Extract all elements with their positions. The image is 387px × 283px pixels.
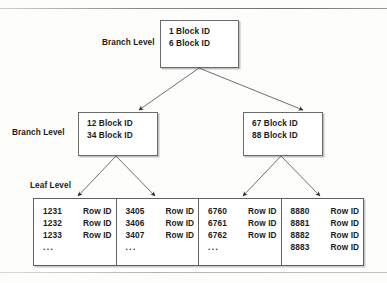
leaf-row-key: 8881 [291, 217, 331, 229]
leaf-row: ... [208, 241, 281, 253]
leaf-row-key: 1231 [43, 205, 83, 217]
page-rule-bottom [0, 272, 387, 273]
leaf-row: 6761Row ID [208, 217, 281, 229]
branch-level-label: Branch Level [12, 128, 65, 137]
leaf-row: 1231Row ID [43, 205, 116, 217]
leaf-row-value: Row ID [331, 229, 360, 241]
leaf-row-value: Row ID [166, 229, 195, 241]
leaf-row-key: ... [126, 241, 166, 253]
branch-node-right: 67 Block ID 88 Block ID [243, 112, 323, 156]
leaf-row: 3407Row ID [126, 229, 199, 241]
root-entry-1: 1 Block ID [169, 26, 238, 38]
branch-left-entry-1: 12 Block ID [87, 118, 157, 130]
leaf-row-key: 8883 [291, 241, 331, 253]
leaf-row: 3406Row ID [126, 217, 199, 229]
leaf-block-3: 6760Row ID6761Row ID6762Row ID... [199, 199, 282, 265]
leaf-row-value: Row ID [166, 217, 195, 229]
leaf-row-value: Row ID [331, 205, 360, 217]
edge-branch-right-to-leaf-4 [281, 156, 320, 196]
branch-right-entry-1: 67 Block ID [252, 118, 322, 130]
leaf-block-2: 3405Row ID3406Row ID3407Row ID... [117, 199, 200, 265]
page-rule-top [0, 8, 387, 9]
leaf-row-key: 8880 [291, 205, 331, 217]
leaf-row: 8880Row ID [291, 205, 364, 217]
leaf-row-key: 1233 [43, 229, 83, 241]
leaf-row-key: ... [208, 241, 248, 253]
leaf-row-key: 3405 [126, 205, 166, 217]
leaf-block-4: 8880Row ID8881Row ID8882Row ID8883Row ID [282, 199, 364, 265]
leaf-row-key: ... [43, 241, 83, 253]
leaf-row: ... [43, 241, 116, 253]
edge-root-to-branch-left [139, 68, 199, 110]
leaf-row: 3405Row ID [126, 205, 199, 217]
edge-branch-left-to-leaf-2 [116, 156, 155, 196]
leaf-block-1: 1231Row ID1232Row ID1233Row ID... [34, 199, 117, 265]
edge-root-to-branch-right [199, 68, 303, 110]
leaf-row-value: Row ID [166, 205, 195, 217]
root-level-label: Branch Level [102, 38, 155, 47]
root-entry-2: 6 Block ID [169, 38, 238, 50]
branch-left-entry-2: 34 Block ID [87, 130, 157, 142]
leaf-row: 6762Row ID [208, 229, 281, 241]
diagram-canvas: 1 Block ID 6 Block ID Branch Level 12 Bl… [0, 0, 387, 283]
leaf-row-value: Row ID [83, 217, 112, 229]
leaf-row-key: 6762 [208, 229, 248, 241]
leaf-row: 1233Row ID [43, 229, 116, 241]
leaf-row-value: Row ID [83, 229, 112, 241]
leaf-row: ... [126, 241, 199, 253]
leaf-level-container: 1231Row ID1232Row ID1233Row ID... 3405Ro… [33, 198, 364, 266]
leaf-level-label: Leaf Level [30, 181, 71, 190]
root-branch-node: 1 Block ID 6 Block ID [160, 20, 239, 68]
leaf-row: 8882Row ID [291, 229, 364, 241]
leaf-row-key: 6761 [208, 217, 248, 229]
leaf-row-key: 3407 [126, 229, 166, 241]
branch-node-left: 12 Block ID 34 Block ID [78, 112, 158, 156]
leaf-row-key: 3406 [126, 217, 166, 229]
leaf-row: 6760Row ID [208, 205, 281, 217]
edge-branch-left-to-leaf-1 [78, 156, 116, 196]
leaf-row-value: Row ID [248, 205, 277, 217]
leaf-row-key: 1232 [43, 217, 83, 229]
leaf-row: 8883Row ID [291, 241, 364, 253]
leaf-row-key: 8882 [291, 229, 331, 241]
leaf-row-value: Row ID [331, 217, 360, 229]
leaf-row-value: Row ID [83, 205, 112, 217]
leaf-row: 8881Row ID [291, 217, 364, 229]
leaf-row: 1232Row ID [43, 217, 116, 229]
leaf-row-value: Row ID [248, 229, 277, 241]
leaf-row-value: Row ID [248, 217, 277, 229]
leaf-row-value: Row ID [331, 241, 360, 253]
branch-right-entry-2: 88 Block ID [252, 130, 322, 142]
edge-branch-right-to-leaf-3 [243, 156, 281, 196]
leaf-row-key: 6760 [208, 205, 248, 217]
